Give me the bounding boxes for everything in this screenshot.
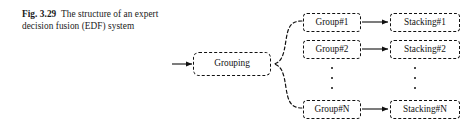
branch-brace (274, 21, 302, 108)
node-stacking-2[interactable]: Stacking#2 (390, 40, 460, 59)
ellipsis-group-column (327, 67, 337, 89)
node-stacking-n-label: Stacking#N (403, 105, 447, 114)
node-grouping-label: Grouping (214, 59, 250, 68)
node-group-n[interactable]: Group#N (303, 100, 361, 119)
node-group-1[interactable]: Group#1 (303, 13, 361, 32)
node-stacking-1-label: Stacking#1 (404, 18, 446, 27)
node-group-1-label: Group#1 (315, 18, 348, 27)
node-group-2[interactable]: Group#2 (303, 40, 361, 59)
node-stacking-n[interactable]: Stacking#N (390, 100, 460, 119)
figure-page: Fig. 3.29 The structure of an expert dec… (0, 0, 473, 128)
node-grouping[interactable]: Grouping (193, 52, 271, 76)
node-group-2-label: Group#2 (315, 45, 348, 54)
node-group-n-label: Group#N (314, 105, 349, 114)
node-stacking-1[interactable]: Stacking#1 (390, 13, 460, 32)
node-stacking-2-label: Stacking#2 (404, 45, 446, 54)
edf-system-diagram: Grouping Group#1 Stacking#1 Group#2 Stac… (0, 0, 473, 128)
ellipsis-stacking-column (410, 67, 420, 89)
